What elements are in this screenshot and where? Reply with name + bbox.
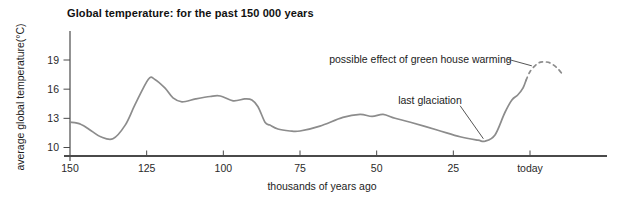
temperature-chart: 19161310150125100755025today last glacia…	[0, 0, 624, 205]
x-tick-label: today	[517, 162, 543, 174]
y-tick-label: 10	[47, 141, 59, 153]
projection-curve-dashed	[526, 62, 562, 81]
x-tick-label: 25	[447, 162, 459, 174]
annotation-label: last glaciation	[398, 94, 462, 106]
x-tick-label: 50	[371, 162, 383, 174]
y-tick-label: 19	[47, 54, 59, 66]
x-tick-label: 125	[138, 162, 156, 174]
axes	[64, 31, 607, 161]
x-axis-label: thousands of years ago	[267, 180, 376, 192]
annotation-line	[460, 106, 483, 139]
curves	[70, 62, 562, 142]
y-tick-label: 16	[47, 83, 59, 95]
x-tick-label: 150	[61, 162, 79, 174]
figure: Global temperature: for the past 150 000…	[0, 0, 624, 205]
temperature-curve	[70, 77, 526, 141]
x-tick-label: 100	[215, 162, 233, 174]
annotations: last glaciationpossible effect of green …	[329, 53, 532, 139]
x-tick-label: 75	[294, 162, 306, 174]
annotation-label: possible effect of green house warming	[329, 53, 512, 65]
y-axis-label: average global temperature(°C)	[14, 23, 26, 170]
y-tick-label: 13	[47, 112, 59, 124]
